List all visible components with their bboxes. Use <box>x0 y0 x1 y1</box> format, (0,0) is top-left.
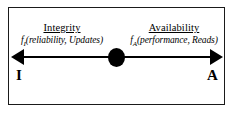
endpoint-letter-availability: A <box>207 68 218 83</box>
arrow-left-icon <box>11 49 24 65</box>
availability-formula: fA(performance, Reads) <box>122 36 226 48</box>
integrity-formula: fI(reliability, Updates) <box>10 36 114 48</box>
integrity-label-group: Integrity fI(reliability, Updates) <box>10 18 114 48</box>
arrow-right-icon <box>210 49 223 65</box>
integrity-formula-args: (reliability, Updates) <box>26 35 103 45</box>
axis-center-marker-icon <box>108 48 125 67</box>
availability-formula-args: (performance, Reads) <box>137 35 218 45</box>
endpoint-letter-integrity: I <box>16 68 22 83</box>
availability-label-group: Availability fA(performance, Reads) <box>122 18 226 48</box>
integrity-title: Integrity <box>43 22 80 33</box>
diagram-root: Integrity fI(reliability, Updates) Avail… <box>0 0 235 113</box>
availability-title: Availability <box>149 22 200 33</box>
